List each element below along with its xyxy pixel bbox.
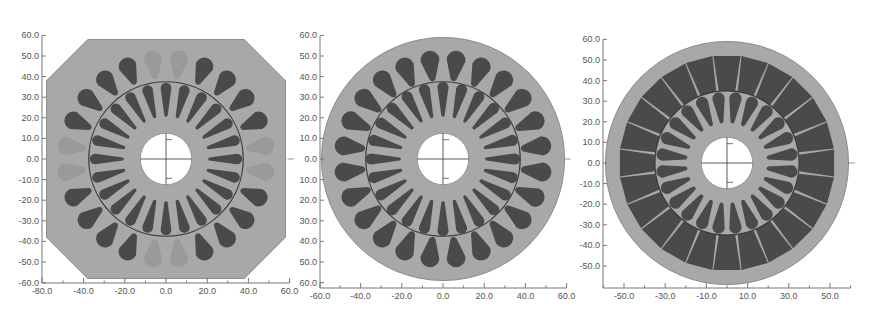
- y-tick-label: 50.0: [299, 51, 317, 61]
- y-tick-label: 60.0: [299, 278, 317, 288]
- y-tick-label: 20.0: [299, 195, 317, 205]
- x-tick-label: -30.0: [655, 291, 676, 301]
- y-tick-label: -50.0: [579, 261, 600, 271]
- y-tick-label: 0.0: [304, 154, 317, 164]
- panel-round-stator-trapezoid: 60.050.040.030.020.010.00.0-10.0-20.0-30…: [579, 34, 854, 301]
- panel-octagonal-stator: 60.050.040.030.020.010.00.0-10.0-20.0-30…: [18, 30, 298, 296]
- x-tick-label: 50.0: [821, 291, 839, 301]
- y-tick-label: -30.0: [579, 220, 600, 230]
- x-tick-label: 20.0: [198, 286, 216, 296]
- x-tick-label: 60.0: [558, 291, 576, 301]
- y-tick-label: 30.0: [299, 92, 317, 102]
- y-tick-label: 40.0: [299, 72, 317, 82]
- y-tick-label: 60.0: [21, 30, 39, 40]
- y-tick-label: 30.0: [299, 216, 317, 226]
- y-tick-label: -10.0: [18, 175, 39, 185]
- x-tick-label: 10.0: [739, 291, 757, 301]
- x-tick-label: -10.0: [696, 291, 717, 301]
- x-tick-label: -40.0: [73, 286, 94, 296]
- y-tick-label: 10.0: [299, 133, 317, 143]
- motor-lamination-figure: 60.050.040.030.020.010.00.0-10.0-20.0-30…: [0, 0, 872, 313]
- y-tick-label: -40.0: [579, 240, 600, 250]
- y-tick-label: -30.0: [18, 216, 39, 226]
- y-tick-label: 60.0: [582, 34, 600, 44]
- x-tick-label: 20.0: [475, 291, 493, 301]
- y-tick-label: 60.0: [299, 30, 317, 40]
- y-tick-label: -50.0: [18, 257, 39, 267]
- x-tick-label: 60.0: [281, 286, 299, 296]
- x-tick-label: -20.0: [392, 291, 413, 301]
- y-tick-label: 30.0: [21, 92, 39, 102]
- x-tick-label: 30.0: [780, 291, 798, 301]
- y-tick-label: 10.0: [21, 133, 39, 143]
- y-tick-label: 0.0: [587, 158, 600, 168]
- y-tick-label: -10.0: [579, 179, 600, 189]
- y-tick-label: 30.0: [582, 96, 600, 106]
- y-tick-label: 10.0: [299, 175, 317, 185]
- panel-round-stator-teardrop: 60.050.040.030.020.010.00.010.020.030.04…: [299, 30, 575, 301]
- y-tick-label: 20.0: [299, 113, 317, 123]
- x-tick-label: -20.0: [115, 286, 136, 296]
- x-tick-label: -50.0: [614, 291, 635, 301]
- x-tick-label: -80.0: [32, 286, 53, 296]
- y-tick-label: 40.0: [21, 72, 39, 82]
- x-tick-label: 40.0: [240, 286, 258, 296]
- y-tick-label: 40.0: [582, 76, 600, 86]
- x-tick-label: -40.0: [350, 291, 371, 301]
- y-tick-label: -20.0: [579, 199, 600, 209]
- x-tick-label: 40.0: [517, 291, 535, 301]
- y-tick-label: 50.0: [21, 51, 39, 61]
- y-tick-label: 20.0: [582, 117, 600, 127]
- x-tick-label: 0.0: [160, 286, 173, 296]
- y-tick-label: 50.0: [582, 55, 600, 65]
- y-tick-label: -40.0: [18, 236, 39, 246]
- y-tick-label: -20.0: [18, 195, 39, 205]
- y-tick-label: 0.0: [26, 154, 39, 164]
- x-tick-label: -60.0: [310, 291, 331, 301]
- y-tick-label: 20.0: [21, 113, 39, 123]
- x-tick-label: 0.0: [437, 291, 450, 301]
- y-tick-label: 40.0: [299, 236, 317, 246]
- y-tick-label: 50.0: [299, 257, 317, 267]
- y-tick-label: 10.0: [582, 137, 600, 147]
